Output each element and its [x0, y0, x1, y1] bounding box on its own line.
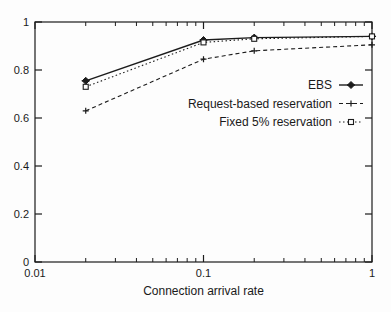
y-tick-label: 0.8	[14, 64, 29, 76]
series-marker-2	[201, 56, 207, 62]
series-line-1	[86, 36, 372, 80]
y-tick-label: 0.6	[14, 112, 29, 124]
series-marker-2	[369, 42, 375, 48]
y-tick-label: 1	[23, 16, 29, 28]
x-tick-label: 0.1	[196, 267, 211, 279]
series-marker-3	[252, 36, 257, 41]
legend-label-1: EBS	[308, 78, 332, 92]
series-marker-3	[201, 40, 206, 45]
line-chart: 00.20.40.60.810.010.11Connection arrival…	[0, 0, 391, 312]
series-marker-2	[251, 48, 257, 54]
x-tick-label: 0.01	[24, 267, 45, 279]
series-marker-3	[83, 84, 88, 89]
series-marker-3	[370, 34, 375, 39]
legend-sample-marker-2	[348, 101, 354, 107]
legend-label-2: Request-based reservation	[188, 97, 332, 111]
legend-sample-marker-3	[349, 120, 354, 125]
x-axis-label: Connection arrival rate	[143, 284, 264, 298]
x-tick-label: 1	[369, 267, 375, 279]
y-tick-label: 0.2	[14, 208, 29, 220]
figure: 00.20.40.60.810.010.11Connection arrival…	[0, 0, 391, 312]
series-marker-2	[83, 108, 89, 114]
y-tick-label: 0.4	[14, 160, 29, 172]
legend-label-3: Fixed 5% reservation	[219, 115, 332, 129]
